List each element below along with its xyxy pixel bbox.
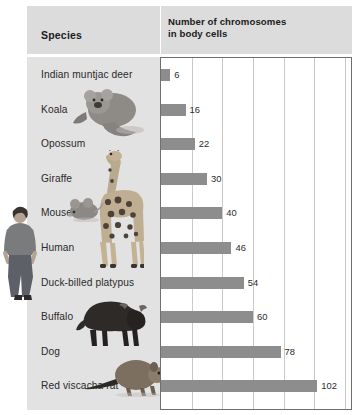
species-label-dog: Dog [41,346,60,357]
bar-value-opossum: 22 [199,138,209,149]
bar-value-red-viscacha-rat: 102 [321,380,337,391]
column-header-chromosomes-line1: Number of chromosomes [168,16,286,27]
species-label-human: Human [41,242,74,253]
species-label-duck-billed-platypus: Duck-billed platypus [41,277,134,288]
species-label-buffalo: Buffalo [41,311,73,322]
table-header: Species Number of chromosomes in body ce… [27,6,352,54]
bar-indian-muntjac-deer[interactable] [161,69,170,81]
bar-red-viscacha-rat[interactable] [161,380,317,392]
species-label-koala: Koala [41,104,68,115]
bar-value-buffalo: 60 [257,311,267,322]
bar-duck-billed-platypus[interactable] [161,277,244,289]
bar-value-indian-muntjac-deer: 6 [174,69,179,80]
column-header-species: Species [41,29,82,41]
gridline-100 [314,58,315,409]
species-label-red-viscacha-rat: Red viscacha rat [41,380,118,391]
species-label-giraffe: Giraffe [41,173,72,184]
bar-opossum[interactable] [161,138,195,150]
species-panel: Indian muntjac deerKoalaOpossumGiraffeMo… [27,57,160,410]
column-header-chromosomes-line2: in body cells [168,28,227,39]
bar-dog[interactable] [161,346,281,358]
bar-buffalo[interactable] [161,311,253,323]
bar-value-giraffe: 30 [211,173,221,184]
bar-value-duck-billed-platypus: 54 [248,277,258,288]
column-header-chromosomes: Number of chromosomes in body cells [168,16,348,41]
bar-mouse[interactable] [161,207,222,219]
bar-value-mouse: 40 [226,207,236,218]
bar-value-dog: 78 [285,346,295,357]
bar-value-koala: 16 [190,104,200,115]
bar-koala[interactable] [161,104,186,116]
gridline-120 [345,58,346,409]
species-label-opossum: Opossum [41,138,85,149]
header-divider [160,6,161,54]
bar-human[interactable] [161,242,231,254]
species-label-mouse: Mouse [41,207,72,218]
bar-giraffe[interactable] [161,173,207,185]
bar-value-human: 46 [235,242,245,253]
species-label-indian-muntjac-deer: Indian muntjac deer [41,69,132,80]
